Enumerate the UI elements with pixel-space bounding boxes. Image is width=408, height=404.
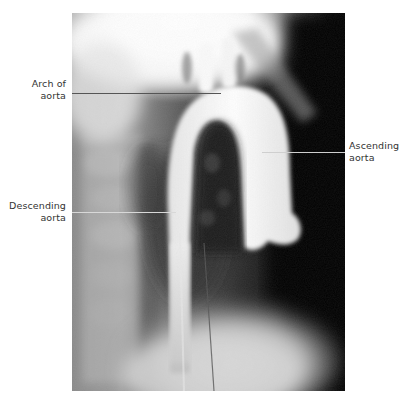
leader-line-ascending xyxy=(262,152,345,153)
label-ascending-line2: aorta xyxy=(349,152,408,164)
label-descending-aorta: Descending aorta xyxy=(4,200,66,224)
radiograph-image xyxy=(72,13,345,391)
leader-line-descending xyxy=(72,212,176,213)
label-arch-line1: Arch of xyxy=(14,78,66,90)
label-ascending-line1: Ascending xyxy=(349,140,408,152)
label-ascending-aorta: Ascending aorta xyxy=(349,140,408,164)
label-descending-line2: aorta xyxy=(4,212,66,224)
label-arch-line2: aorta xyxy=(14,90,66,102)
anatomy-figure: Arch of aorta Ascending aorta Descending… xyxy=(0,0,408,404)
label-arch-of-aorta: Arch of aorta xyxy=(14,78,66,102)
label-descending-line1: Descending xyxy=(4,200,66,212)
aortogram-radiograph xyxy=(72,13,345,391)
leader-line-arch xyxy=(72,93,221,94)
